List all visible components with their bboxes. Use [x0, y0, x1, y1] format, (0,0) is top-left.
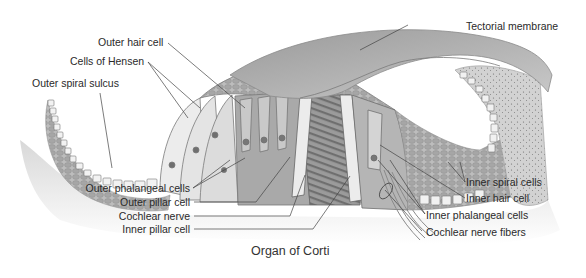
inner-hair-cells [368, 110, 382, 170]
label-tectorial-membrane: Tectorial membrane [466, 20, 558, 32]
label-cochlear-nerve-fibers: Cochlear nerve fibers [426, 226, 526, 238]
label-outer-hair-cell: Outer hair cell [98, 36, 163, 48]
organ-of-corti-figure: Outer hair cell Cells of Hensen Outer sp… [0, 0, 586, 278]
label-outer-pillar-cell: Outer pillar cell [120, 196, 190, 208]
label-outer-spiral-sulcus: Outer spiral sulcus [32, 77, 119, 89]
label-cells-of-hensen: Cells of Hensen [70, 55, 144, 67]
label-cochlear-nerve: Cochlear nerve [119, 210, 190, 222]
outer-hair-cells [240, 95, 288, 152]
label-inner-hair-cell: Inner hair cell [466, 192, 529, 204]
label-inner-phalangeal-cells: Inner phalangeal cells [426, 209, 528, 221]
label-inner-pillar-cell: Inner pillar cell [122, 223, 190, 235]
label-inner-spiral-cells: Inner spiral cells [466, 176, 542, 188]
figure-caption: Organ of Corti [251, 244, 330, 258]
label-outer-phalangeal-cells: Outer phalangeal cells [86, 182, 190, 194]
